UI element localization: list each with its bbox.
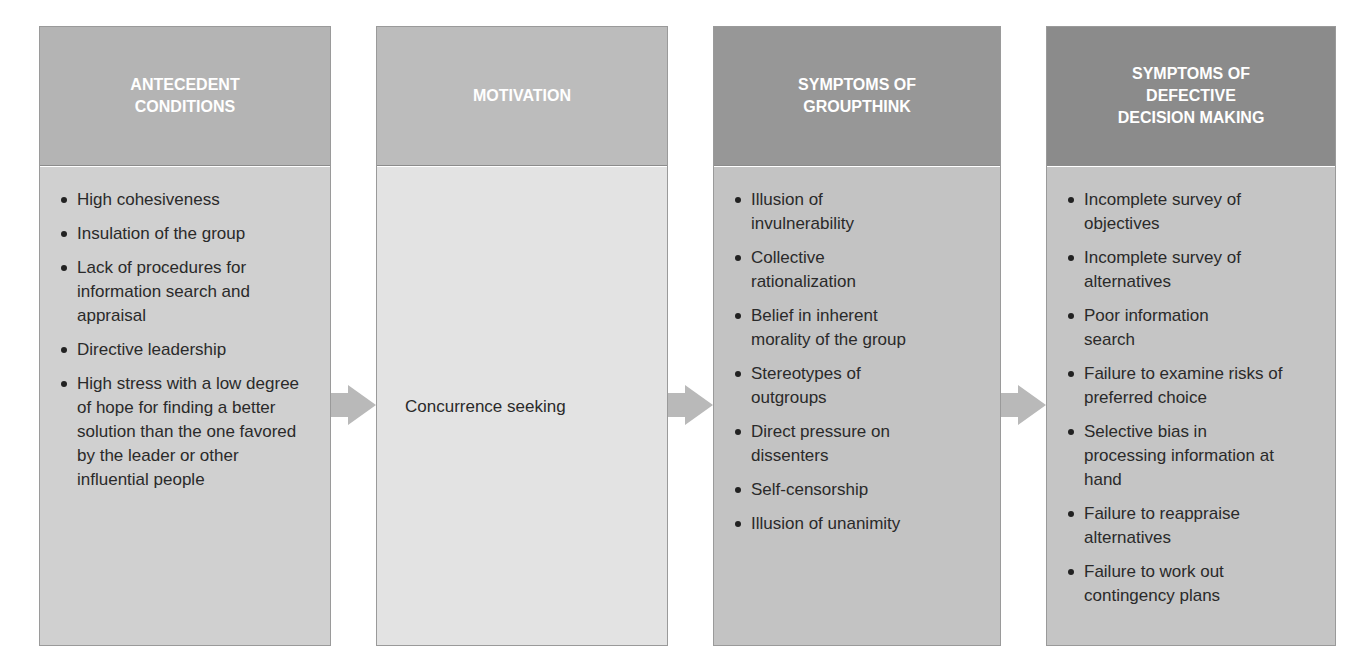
list-item: Directive leadership [60,338,310,362]
list-item: Incomplete survey of objectives [1067,188,1289,236]
stage-body: Concurrence seeking [377,167,667,645]
right-arrow-icon [668,385,714,425]
stage-motivation: MOTIVATION Concurrence seeking [376,26,668,646]
list-item: High cohesiveness [60,188,310,212]
stage-title-line: GROUPTHINK [798,96,916,118]
stage-body: Illusion of invulnerability Collective r… [714,167,1000,645]
stage-title-line: DEFECTIVE [1118,85,1265,107]
list-item: Self-censorship [734,478,939,502]
list-item: Failure to examine risks of preferred ch… [1067,362,1307,410]
list-item: Collective rationalization [734,246,891,294]
stage-symptoms-of-defective-decision-making: SYMPTOMS OF DEFECTIVE DECISION MAKING In… [1046,26,1336,646]
stage-antecedent-conditions: ANTECEDENT CONDITIONS High cohesiveness … [39,26,331,646]
right-arrow-icon [1001,385,1047,425]
stage-title-line: SYMPTOMS OF [1118,63,1265,85]
list-item: Insulation of the group [60,222,310,246]
stage-title-line: SYMPTOMS OF [798,74,916,96]
list-item: Failure to reappraise alternatives [1067,502,1307,550]
stage-header: SYMPTOMS OF GROUPTHINK [714,27,1000,166]
list-item: Illusion of unanimity [734,512,939,536]
stage-title-line: DECISION MAKING [1118,107,1265,129]
stage-symptoms-of-groupthink: SYMPTOMS OF GROUPTHINK Illusion of invul… [713,26,1001,646]
list-item: Illusion of invulnerability [734,188,891,236]
list-item: Stereotypes of outgroups [734,362,891,410]
stage-header: ANTECEDENT CONDITIONS [40,27,330,166]
list-item: Failure to work out contingency plans [1067,560,1274,608]
stage-title-line: CONDITIONS [130,96,239,118]
stage-body: Incomplete survey of objectives Incomple… [1047,167,1335,645]
stage-title-line: ANTECEDENT [130,74,239,96]
list-item: Belief in inherent morality of the group [734,304,939,352]
item-list: High cohesiveness Insulation of the grou… [60,188,310,502]
list-item: Direct pressure on dissenters [734,420,926,468]
item-list: Illusion of invulnerability Collective r… [734,188,939,546]
list-item: Incomplete survey of alternatives [1067,246,1289,294]
motivation-text: Concurrence seeking [405,395,566,419]
list-item: High stress with a low degree of hope fo… [60,372,302,492]
right-arrow-icon [331,385,377,425]
stage-header: MOTIVATION [377,27,667,166]
item-list: Incomplete survey of objectives Incomple… [1067,188,1307,618]
stage-header: SYMPTOMS OF DEFECTIVE DECISION MAKING [1047,27,1335,166]
list-item: Lack of procedures for information searc… [60,256,287,328]
list-item: Selective bias in processing information… [1067,420,1284,492]
stage-title-line: MOTIVATION [473,85,571,107]
stage-body: High cohesiveness Insulation of the grou… [40,167,330,645]
list-item: Poor information search [1067,304,1259,352]
